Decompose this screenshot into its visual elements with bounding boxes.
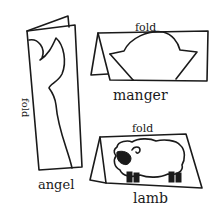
lamb-leg-back-1 (169, 172, 174, 182)
angel-label: angel (38, 177, 74, 192)
manger-card (98, 31, 208, 81)
lamb-leg-front-1 (127, 172, 132, 182)
lamb-label: lamb (133, 190, 168, 206)
manger-label: manger (113, 87, 168, 103)
lamb-fold-label: fold (132, 122, 153, 135)
lamb-leg-back-2 (176, 173, 181, 182)
fold-templates-diagram: fold angel fold manger fold lamb (0, 0, 218, 206)
angel-template: fold angel (20, 16, 82, 192)
lamb-leg-front-2 (134, 173, 139, 182)
lamb-template: fold lamb (90, 122, 202, 206)
angel-fold-label: fold (20, 98, 31, 118)
angel-silhouette (29, 38, 72, 168)
manger-cutout-left-leg (110, 54, 133, 80)
manger-template: fold manger (91, 21, 208, 103)
lamb-card (100, 134, 202, 188)
manger-cutout (110, 32, 197, 80)
lamb-ear (132, 147, 140, 153)
lamb-head (117, 151, 131, 164)
